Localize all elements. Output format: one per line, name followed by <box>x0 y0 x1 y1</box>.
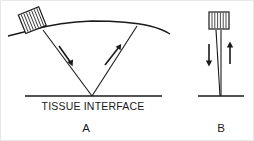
panel-b: B <box>198 12 244 134</box>
transmit-arrow-b <box>206 44 212 67</box>
panel-b-label: B <box>217 122 225 134</box>
beam-line-b-left <box>216 30 220 96</box>
transducer-b[interactable] <box>209 12 229 29</box>
panel-a: TISSUE INTERFACE A <box>8 7 170 134</box>
beam-line-right <box>92 26 137 96</box>
figure-root: TISSUE INTERFACE A <box>0 0 254 141</box>
transducer-a[interactable] <box>18 7 46 34</box>
transmit-arrow-a <box>59 46 73 66</box>
tissue-interface-label: TISSUE INTERFACE <box>42 100 145 112</box>
panel-a-label: A <box>82 122 90 134</box>
beam-line-left <box>43 30 92 96</box>
ultrasound-beam-diagram: TISSUE INTERFACE A <box>0 0 254 141</box>
receive-arrow-b <box>227 42 233 65</box>
